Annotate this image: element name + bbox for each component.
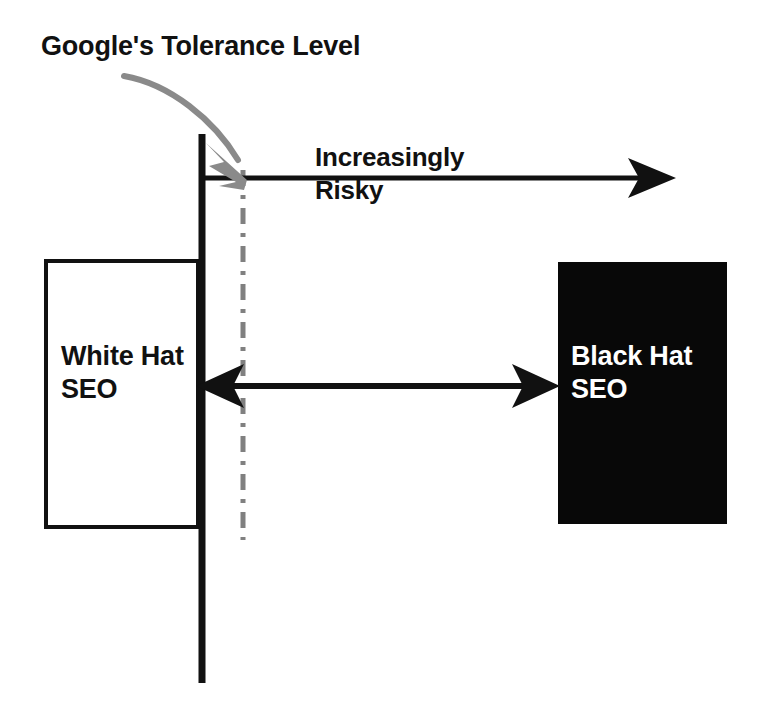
risk-label-line-2: Risky: [315, 175, 383, 205]
black-hat-line-2: SEO: [571, 374, 627, 404]
black-hat-seo-label: Black HatSEO: [571, 340, 692, 406]
white-hat-line-1: White Hat: [61, 341, 184, 371]
risk-label-line-1: Increasingly: [315, 142, 464, 172]
white-hat-seo-label: White HatSEO: [61, 340, 184, 406]
white-hat-line-2: SEO: [61, 374, 117, 404]
black-hat-line-1: Black Hat: [571, 341, 692, 371]
increasingly-risky-label: IncreasinglyRisky: [315, 141, 464, 208]
page-title: Google's Tolerance Level: [41, 32, 360, 61]
